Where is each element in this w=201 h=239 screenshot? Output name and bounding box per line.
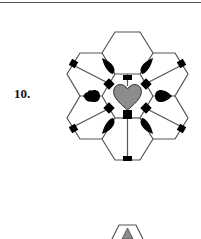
heart-icon — [155, 90, 172, 102]
gray-triangle-icon — [122, 228, 133, 239]
next-figure-partial — [112, 225, 143, 239]
heart-icon — [102, 118, 115, 134]
hexagon-heart-figure — [0, 0, 201, 239]
heart-icon — [140, 58, 153, 74]
heart-icon — [140, 118, 153, 134]
heart-icon — [83, 90, 100, 102]
heart-icon — [102, 58, 115, 74]
center-heart-icon — [114, 85, 142, 111]
